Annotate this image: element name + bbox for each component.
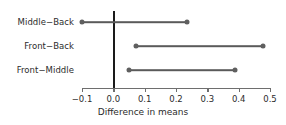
- x-tick-label-3: 0.2: [169, 94, 183, 104]
- x-tick-3: [176, 88, 177, 92]
- x-tick-label-4: 0.3: [201, 94, 215, 104]
- x-tick-label-2: 0.1: [138, 94, 152, 104]
- interval-upper-dot-front-middle: [232, 68, 237, 73]
- x-tick-1: [113, 88, 114, 92]
- interval-line-middle-back: [82, 21, 187, 23]
- x-tick-label-5: 0.4: [232, 94, 246, 104]
- interval-upper-dot-middle-back: [184, 20, 189, 25]
- confidence-interval-chart: Middle−Back Front−Back Front−Middle −0.1…: [0, 0, 286, 125]
- x-tick-label-1: 0.0: [107, 94, 121, 104]
- x-tick-label-0: −0.1: [72, 94, 93, 104]
- x-axis-title: Difference in means: [0, 107, 286, 117]
- x-tick-2: [145, 88, 146, 92]
- interval-lower-dot-middle-back: [80, 20, 85, 25]
- interval-lower-dot-front-middle: [127, 68, 132, 73]
- x-tick-5: [239, 88, 240, 92]
- x-tick-0: [82, 88, 83, 92]
- interval-upper-dot-front-back: [261, 44, 266, 49]
- interval-line-front-middle: [129, 69, 235, 71]
- x-tick-6: [270, 88, 271, 92]
- x-tick-label-6: 0.5: [263, 94, 277, 104]
- x-tick-4: [207, 88, 208, 92]
- interval-lower-dot-front-back: [133, 44, 138, 49]
- interval-line-front-back: [136, 45, 263, 47]
